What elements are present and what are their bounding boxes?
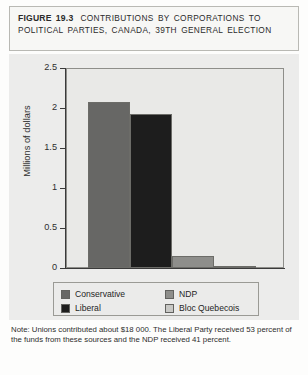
figure-note: Note: Unions contributed about $18 000. … (11, 325, 299, 346)
figure-container: FIGURE 19.3CONTRIBUTIONS BY CORPORATIONS… (0, 0, 308, 375)
legend-swatch-ndp (165, 290, 174, 299)
chart-legend: Conservative NDP Liberal Bloc Quebecois (53, 282, 259, 316)
legend-label-ndp: NDP (179, 289, 197, 299)
bar-bloc-quebecois (214, 266, 256, 268)
bar-ndp (172, 256, 214, 268)
bar-liberal (130, 114, 172, 268)
y-tick-label-1-5: 1.5 (11, 142, 57, 152)
legend-item-ndp: NDP (165, 289, 197, 299)
y-tick-label-0-5: 0.5 (11, 222, 57, 232)
legend-item-conservative: Conservative (61, 289, 165, 299)
figure-header-text: FIGURE 19.3CONTRIBUTIONS BY CORPORATIONS… (18, 13, 290, 36)
chart-panel: 2.5 2 1.5 1 0.5 0 Millions of dollars (9, 54, 299, 320)
y-axis-label: Millions of dollars (22, 61, 32, 221)
legend-swatch-liberal (61, 304, 70, 313)
legend-item-bloc-quebecois: Bloc Quebecois (165, 303, 239, 313)
figure-header: FIGURE 19.3CONTRIBUTIONS BY CORPORATIONS… (9, 6, 299, 51)
legend-label-liberal: Liberal (75, 303, 101, 313)
legend-label-conservative: Conservative (75, 289, 125, 299)
legend-item-liberal: Liberal (61, 303, 165, 313)
y-tick-label-1: 1 (11, 182, 57, 192)
bar-conservative (88, 102, 130, 268)
legend-swatch-bloc-quebecois (165, 304, 174, 313)
legend-swatch-conservative (61, 290, 70, 299)
legend-label-bloc-quebecois: Bloc Quebecois (179, 303, 239, 313)
figure-number: FIGURE 19.3 (18, 13, 73, 23)
y-tick-label-2-5: 2.5 (11, 62, 57, 72)
y-tick-label-0: 0 (11, 262, 57, 272)
y-tick-label-2: 2 (11, 102, 57, 112)
bar-series (66, 68, 284, 268)
x-axis-line (65, 268, 285, 269)
